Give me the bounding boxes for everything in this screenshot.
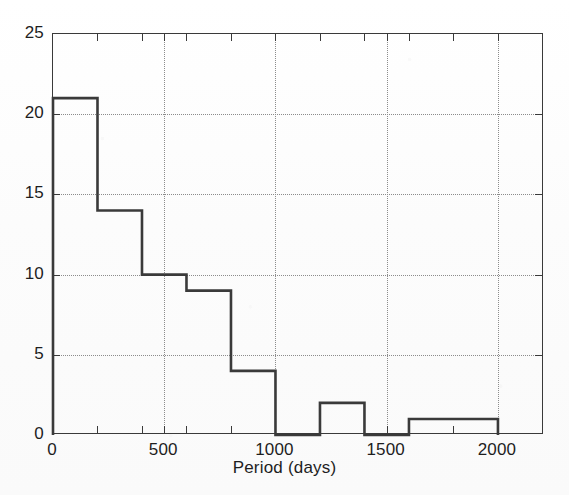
y-tick-label: 0 <box>0 424 44 444</box>
x-tick-label: 1000 <box>255 440 294 460</box>
y-tick-label: 20 <box>0 103 44 123</box>
x-tick-label: 500 <box>149 440 178 460</box>
y-tick-label: 10 <box>0 264 44 284</box>
x-tick-label: 0 <box>47 440 57 460</box>
plot-area <box>52 33 543 434</box>
x-axis-label: Period (days) <box>0 458 569 478</box>
y-tick-label: 15 <box>0 183 44 203</box>
y-tick-label: 25 <box>0 23 44 43</box>
y-tick-label: 5 <box>0 344 44 364</box>
x-tick-label: 2000 <box>478 440 517 460</box>
histogram-bars <box>53 34 544 435</box>
bar-outline-path <box>53 98 498 435</box>
x-tick-label: 1500 <box>366 440 405 460</box>
histogram-figure: 0500100015002000 0510152025 Period (days… <box>0 0 569 495</box>
